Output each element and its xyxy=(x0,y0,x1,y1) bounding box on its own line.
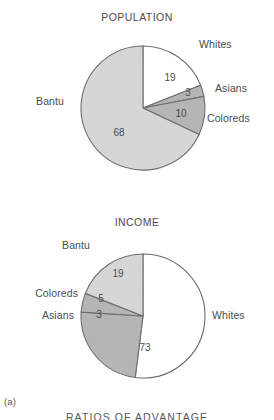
pie-slice-whites[interactable] xyxy=(135,254,205,378)
figure-bottom-caption: RATIOS OF ADVANTAGE xyxy=(0,411,274,420)
pie-slice-asians[interactable] xyxy=(81,312,143,377)
pie-value-coloreds: 10 xyxy=(175,108,187,119)
pie-value-bantu: 68 xyxy=(113,127,125,138)
pie-chart-population: POPULATION 19 3 10 68 Whites Asians Colo… xyxy=(0,0,274,200)
pie-value-asians: 3 xyxy=(96,309,102,320)
pie-label-coloreds: Coloreds xyxy=(207,112,250,124)
pie-label-asians: Asians xyxy=(4,309,74,321)
pie-svg-income: 73 3 5 19 xyxy=(0,200,274,400)
figure-ratios-of-advantage: POPULATION 19 3 10 68 Whites Asians Colo… xyxy=(0,0,274,420)
pie-label-bantu: Bantu xyxy=(38,239,90,251)
pie-value-whites: 19 xyxy=(164,72,176,83)
pie-label-asians: Asians xyxy=(215,82,247,94)
panel-letter: (a) xyxy=(4,396,16,407)
pie-label-coloreds: Coloreds xyxy=(0,287,78,299)
pie-value-whites: 73 xyxy=(139,342,151,353)
pie-label-bantu: Bantu xyxy=(14,95,64,107)
pie-label-whites: Whites xyxy=(199,38,232,50)
pie-value-asians: 3 xyxy=(185,87,191,98)
pie-value-coloreds: 5 xyxy=(98,293,104,304)
pie-chart-income: INCOME 73 3 5 19 Whites Asians Coloreds … xyxy=(0,200,274,400)
pie-value-bantu: 19 xyxy=(112,268,124,279)
pie-label-whites: Whites xyxy=(212,309,245,321)
